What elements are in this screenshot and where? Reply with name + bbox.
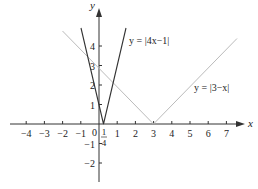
x-tick-label: 6 (206, 128, 211, 139)
y-tick-label: −2 (84, 158, 95, 169)
x-tick-label: 5 (188, 128, 193, 139)
x-tick-label: 1 (115, 128, 120, 139)
x-axis-label: x (247, 117, 253, 129)
x-tick-label: 2 (133, 128, 138, 139)
x-tick-label: −4 (21, 128, 32, 139)
x-tick-label: −2 (57, 128, 68, 139)
curve-abs-4x-minus-1 (81, 28, 126, 124)
x-tick-label: −3 (39, 128, 50, 139)
x-tick-label: −1 (75, 128, 86, 139)
y-tick-label: 1 (90, 100, 95, 111)
x-tick-label: 4 (169, 128, 174, 139)
origin-label: 0 (92, 127, 97, 138)
label-abs-4x-minus-1: y = |4x−1| (129, 35, 169, 46)
x-tick-label: 3 (151, 128, 156, 139)
y-tick-label: −1 (84, 139, 95, 150)
graph: x y 0 1 4 −4−3−2−11234567 −2−11234 y = |… (0, 0, 258, 189)
label-abs-3-minus-x: y = |3−x| (194, 82, 229, 93)
y-axis-label: y (89, 0, 95, 11)
y-axis-arrow-icon (96, 8, 102, 17)
x-axis-arrow-icon (236, 121, 245, 127)
x-tick-label: 7 (224, 128, 229, 139)
quarter-tick-label: 1 4 (101, 127, 107, 148)
y-tick-label: 4 (90, 41, 95, 52)
svg-text:1: 1 (102, 127, 107, 137)
svg-text:4: 4 (102, 138, 107, 148)
